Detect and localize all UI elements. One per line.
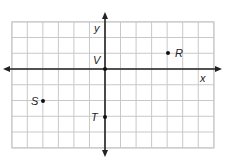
x-axis-right-arrow-icon bbox=[215, 66, 222, 72]
point-s bbox=[41, 99, 45, 103]
point-v-label: V bbox=[93, 54, 102, 66]
y-axis-down-arrow-icon bbox=[102, 150, 108, 157]
point-r-label: R bbox=[175, 47, 183, 59]
x-axis-label: x bbox=[199, 72, 206, 84]
point-t-label: T bbox=[91, 111, 99, 123]
coordinate-plane: x y R V S T bbox=[0, 0, 230, 167]
grid-lines bbox=[12, 22, 214, 148]
point-v bbox=[103, 67, 107, 71]
point-s-label: S bbox=[31, 95, 39, 107]
point-r bbox=[166, 51, 170, 55]
point-t bbox=[103, 115, 107, 119]
y-axis-up-arrow-icon bbox=[102, 12, 108, 19]
y-axis-label: y bbox=[93, 22, 101, 34]
x-axis-left-arrow-icon bbox=[3, 66, 10, 72]
